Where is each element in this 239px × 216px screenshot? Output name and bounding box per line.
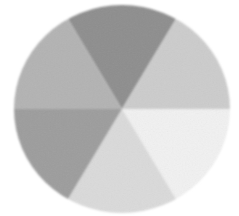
figure-canvas	[0, 0, 239, 216]
sector-disc	[0, 0, 239, 216]
